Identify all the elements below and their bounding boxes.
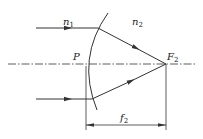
label-n2: n2 <box>132 16 143 29</box>
refracted-ray-top <box>98 28 166 64</box>
refracted-ray-bottom <box>92 64 166 99</box>
refraction-diagram: n1 n2 P F2 f2 <box>0 0 203 139</box>
label-focal-point-F2: F2 <box>166 51 178 64</box>
label-vertex-P: P <box>72 51 80 62</box>
label-n1: n1 <box>63 16 74 29</box>
label-focal-length-f2: f2 <box>119 112 128 125</box>
